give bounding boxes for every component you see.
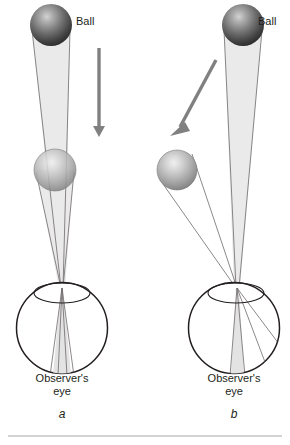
panel-letter-a: a	[14, 408, 110, 421]
ball-upper-a	[30, 4, 72, 46]
eye-caption-b-line2: eye	[186, 385, 282, 398]
eye-caption-a: Observer's eye	[14, 372, 110, 398]
ball-label-a: Ball	[76, 15, 94, 28]
panel-b	[157, 4, 285, 376]
ball-lower-a	[34, 149, 76, 191]
eye-caption-b-line1: Observer's	[186, 372, 282, 385]
eye-caption-a-line2: eye	[14, 385, 110, 398]
ball-label-b: Ball	[258, 15, 276, 28]
motion-arrow-b	[170, 60, 216, 136]
ray-b-low-lower	[163, 184, 236, 288]
motion-arrow-a	[93, 48, 105, 137]
figure-container: Ball Ball Observer's eye Observer's eye …	[0, 0, 290, 445]
eye-caption-a-line1: Observer's	[14, 372, 110, 385]
panel-letter-b: b	[186, 408, 282, 421]
eye-caption-b: Observer's eye	[186, 372, 282, 398]
panel-a	[17, 4, 108, 376]
ball-lower-b	[157, 150, 197, 190]
